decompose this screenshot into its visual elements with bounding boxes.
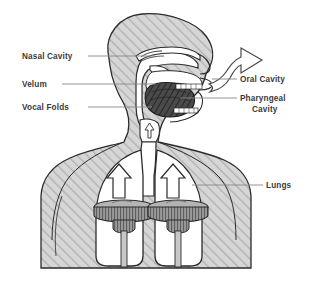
label-pharyngeal-cavity-line2: Cavity xyxy=(252,105,278,114)
diagram-canvas: Nasal Cavity Velum Vocal Folds Oral Cavi… xyxy=(0,0,309,282)
label-oral-cavity: Oral Cavity xyxy=(240,75,285,84)
label-nasal-cavity: Nasal Cavity xyxy=(22,52,73,61)
label-vocal-folds: Vocal Folds xyxy=(22,103,69,112)
mouth-outflow-arrow xyxy=(209,48,262,92)
label-lungs: Lungs xyxy=(266,181,292,190)
label-pharyngeal-cavity-line1: Pharyngeal xyxy=(240,94,286,103)
label-velum: Velum xyxy=(22,80,47,89)
respiratory-diagram: Nasal Cavity Velum Vocal Folds Oral Cavi… xyxy=(0,0,309,282)
